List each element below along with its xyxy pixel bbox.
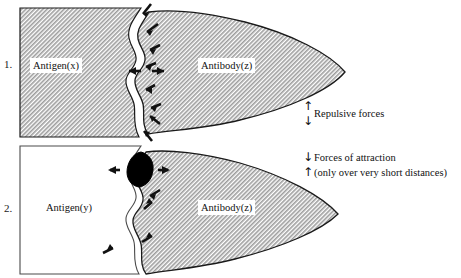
antibody-z-label-panel-1: Antibody(z) [198,58,255,73]
attraction-forces-sublabel: (only over very short distances) [314,165,447,180]
attraction-forces-label: Forces of attraction [314,150,447,165]
repulsive-arrow-stack: ↑ ↓ [302,99,314,129]
attraction-forces-annotation: ↓ ↑ Forces of attraction (only over very… [302,150,447,180]
panel-1-number: 1. [4,58,12,70]
attraction-arrow-stack: ↓ ↑ [302,150,314,180]
antigen-x-label: Antigen(x) [30,58,82,73]
panel-2-number: 2. [4,202,12,214]
attraction-text-block: Forces of attraction (only over very sho… [314,150,447,180]
antigen-y-label: Antigen(y) [43,200,95,215]
repulsive-forces-label: Repulsive forces [314,99,384,121]
diagram-canvas [0,0,461,278]
arrow-down-icon: ↓ [303,150,313,165]
arrow-up-icon: ↑ [303,99,313,114]
repulsive-forces-annotation: ↑ ↓ Repulsive forces [302,99,384,129]
arrow-up-icon: ↑ [303,165,313,180]
antigen-antibody-diagram: 1. 2. Antigen(x) Antibody(z) Antigen(y) … [0,0,461,278]
arrow-down-icon: ↓ [303,114,313,129]
antibody-z-label-panel-2: Antibody(z) [198,200,255,215]
